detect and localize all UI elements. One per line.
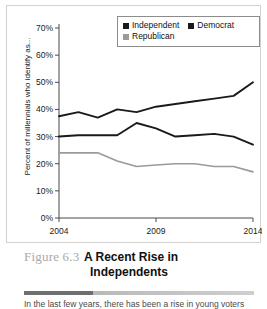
legend-item-democrat[interactable]: Democrat xyxy=(188,20,234,31)
caption-divider-rule xyxy=(24,291,254,295)
legend-row-top: Independent Democrat xyxy=(123,20,254,31)
y-axis-title: Percent of millennials who identify as..… xyxy=(23,27,32,187)
svg-text:50%: 50% xyxy=(36,77,53,87)
svg-text:2004: 2004 xyxy=(50,226,69,236)
chart-legend: Independent Democrat Republican xyxy=(117,16,260,47)
svg-text:30%: 30% xyxy=(36,132,53,142)
figure-number: Figure 6.3 xyxy=(24,249,79,264)
figure-caption: Figure 6.3 A Recent Rise in Independents xyxy=(6,248,261,280)
figure-page: 0%10%20%30%40%50%60%70%200420092014 Perc… xyxy=(0,0,267,309)
caption-title-line1: A Recent Rise in xyxy=(84,250,178,264)
legend-swatch-republican xyxy=(123,34,129,40)
axis-lines xyxy=(55,24,253,222)
svg-text:60%: 60% xyxy=(36,50,53,60)
legend-swatch-democrat xyxy=(188,23,194,29)
legend-item-independent[interactable]: Independent xyxy=(123,20,179,31)
body-text-clipped: In the last few years, there has been a … xyxy=(24,299,256,309)
svg-text:2014: 2014 xyxy=(244,226,262,236)
svg-text:40%: 40% xyxy=(36,104,53,114)
svg-text:20%: 20% xyxy=(36,159,53,169)
legend-row-bottom: Republican xyxy=(123,31,254,42)
legend-label-independent: Independent xyxy=(132,20,179,31)
svg-text:2009: 2009 xyxy=(147,226,166,236)
figure-panel: 0%10%20%30%40%50%60%70%200420092014 Perc… xyxy=(6,5,261,243)
svg-text:10%: 10% xyxy=(36,186,53,196)
data-series-group xyxy=(59,82,253,172)
series-line-republican xyxy=(59,153,253,172)
caption-title-line2: Independents xyxy=(6,265,261,280)
svg-text:0%: 0% xyxy=(41,213,54,223)
legend-label-republican: Republican xyxy=(132,31,175,42)
axis-tick-labels: 0%10%20%30%40%50%60%70%200420092014 xyxy=(36,23,262,236)
svg-text:70%: 70% xyxy=(36,23,53,33)
legend-label-democrat: Democrat xyxy=(197,20,234,31)
series-line-democrat xyxy=(59,123,253,145)
legend-swatch-independent xyxy=(123,23,129,29)
caption-first-line: Figure 6.3 A Recent Rise in xyxy=(6,248,261,265)
series-line-independent xyxy=(59,82,253,117)
legend-item-republican[interactable]: Republican xyxy=(123,31,175,42)
